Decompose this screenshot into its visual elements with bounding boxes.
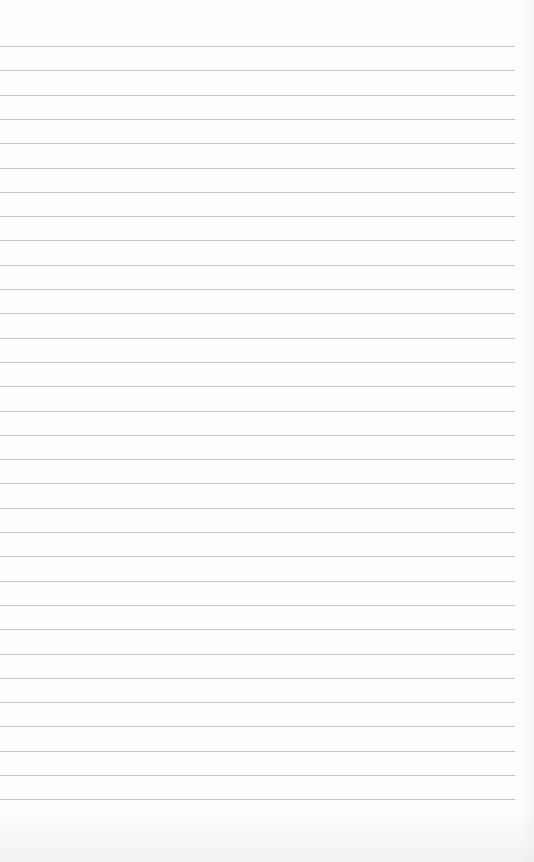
ruled-line [0, 240, 515, 241]
bottom-edge-shadow [0, 812, 534, 862]
ruled-line [0, 775, 515, 776]
lined-paper-sheet [0, 0, 534, 862]
ruled-line [0, 556, 515, 557]
ruled-line [0, 605, 515, 606]
ruled-line [0, 338, 515, 339]
ruled-line [0, 362, 515, 363]
ruled-line [0, 386, 515, 387]
ruled-line [0, 581, 515, 582]
right-edge-shadow [520, 0, 534, 862]
ruled-line [0, 678, 515, 679]
ruled-line [0, 411, 515, 412]
ruled-line [0, 702, 515, 703]
ruled-line [0, 313, 515, 314]
ruled-line [0, 629, 515, 630]
ruled-line [0, 483, 515, 484]
ruled-line [0, 168, 515, 169]
ruled-line [0, 751, 515, 752]
ruled-line [0, 289, 515, 290]
ruled-line [0, 265, 515, 266]
ruled-line [0, 119, 515, 120]
ruled-line [0, 726, 515, 727]
ruled-line [0, 435, 515, 436]
ruled-line [0, 532, 515, 533]
ruled-line [0, 654, 515, 655]
ruled-line [0, 46, 515, 47]
ruled-line [0, 799, 515, 800]
ruled-line [0, 70, 515, 71]
ruled-line [0, 143, 515, 144]
ruled-line [0, 508, 515, 509]
ruled-line [0, 459, 515, 460]
ruled-line [0, 95, 515, 96]
ruled-line [0, 216, 515, 217]
ruled-line [0, 192, 515, 193]
